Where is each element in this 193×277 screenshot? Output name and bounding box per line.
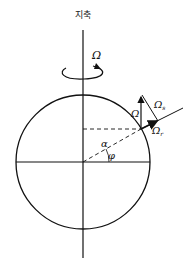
earth-rotation-diagram: 지축 Ω α φ Ω Ωs Ωr <box>0 0 193 277</box>
omega-label: Ω <box>130 108 139 119</box>
omega-r-label: Ωr <box>151 125 164 137</box>
alpha-label: α <box>101 138 108 149</box>
omega-s-label: Ωs <box>153 99 165 111</box>
phi-label: φ <box>108 150 115 161</box>
rotation-label: Ω <box>91 49 101 62</box>
axis-label: 지축 <box>75 10 91 20</box>
